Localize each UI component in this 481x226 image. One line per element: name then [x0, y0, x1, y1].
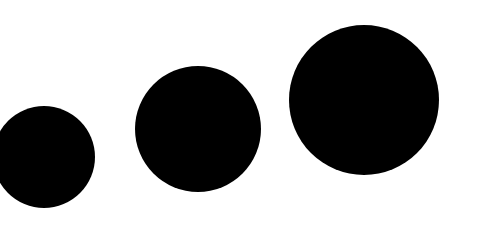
- circle-small: [0, 106, 95, 208]
- canvas: [0, 0, 481, 226]
- circle-medium: [135, 66, 261, 192]
- circle-large: [289, 25, 439, 175]
